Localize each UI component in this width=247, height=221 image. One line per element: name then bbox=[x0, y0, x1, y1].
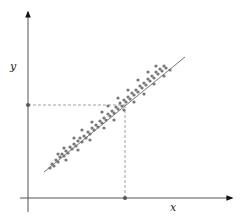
data-point bbox=[112, 118, 115, 121]
data-point bbox=[66, 151, 69, 154]
data-point bbox=[102, 126, 105, 129]
data-point bbox=[148, 79, 151, 82]
x-marker-dot bbox=[123, 196, 127, 200]
data-point bbox=[136, 78, 139, 81]
data-point bbox=[162, 74, 165, 77]
data-points bbox=[48, 64, 171, 169]
data-point bbox=[142, 92, 145, 95]
scatter-figure: y x bbox=[0, 0, 247, 221]
data-point bbox=[84, 136, 87, 139]
data-point bbox=[118, 101, 121, 104]
data-point bbox=[152, 76, 155, 79]
data-point bbox=[126, 88, 129, 91]
data-point bbox=[132, 100, 135, 103]
data-point bbox=[122, 108, 125, 111]
data-point bbox=[64, 158, 67, 161]
data-point bbox=[74, 144, 77, 147]
data-point bbox=[88, 132, 91, 135]
data-point bbox=[104, 118, 107, 121]
data-point bbox=[168, 68, 171, 71]
data-point bbox=[116, 107, 119, 110]
data-point bbox=[92, 128, 95, 131]
data-point bbox=[128, 97, 131, 100]
data-point bbox=[48, 166, 51, 169]
data-point bbox=[52, 164, 55, 167]
data-point bbox=[56, 152, 59, 155]
data-point bbox=[58, 155, 61, 158]
data-point bbox=[108, 114, 111, 117]
data-point bbox=[76, 139, 79, 142]
data-point bbox=[132, 93, 135, 96]
data-point bbox=[62, 146, 65, 149]
data-point bbox=[90, 120, 93, 123]
data-point bbox=[96, 125, 99, 128]
data-point bbox=[136, 90, 139, 93]
y-axis-label: y bbox=[9, 60, 17, 73]
data-point bbox=[120, 104, 123, 107]
data-point bbox=[78, 136, 81, 139]
data-point bbox=[112, 111, 115, 114]
data-point bbox=[80, 128, 83, 131]
data-point bbox=[80, 140, 83, 143]
data-point bbox=[156, 72, 159, 75]
data-point bbox=[146, 70, 149, 73]
data-point bbox=[106, 104, 109, 107]
axes bbox=[20, 12, 232, 212]
data-point bbox=[160, 69, 163, 72]
data-point bbox=[164, 66, 167, 69]
data-point bbox=[70, 147, 73, 150]
data-point bbox=[72, 136, 75, 139]
data-point bbox=[124, 100, 127, 103]
data-point bbox=[116, 96, 119, 99]
data-point bbox=[76, 148, 79, 151]
data-point bbox=[100, 121, 103, 124]
data-point bbox=[62, 154, 65, 157]
data-point bbox=[154, 64, 157, 67]
data-point bbox=[140, 86, 143, 89]
y-marker-dot bbox=[26, 103, 30, 107]
data-point bbox=[100, 110, 103, 113]
data-point bbox=[144, 83, 147, 86]
projection-markers bbox=[26, 103, 127, 200]
data-point bbox=[56, 160, 59, 163]
data-point bbox=[152, 82, 155, 85]
x-axis-label: x bbox=[170, 201, 177, 214]
data-point bbox=[88, 138, 91, 141]
